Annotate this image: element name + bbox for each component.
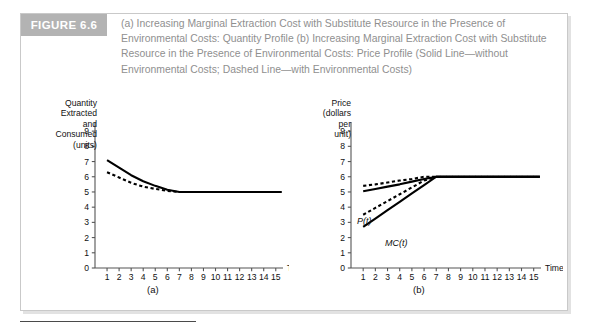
footnote-rule	[20, 321, 196, 322]
svg-text:6: 6	[84, 172, 89, 182]
svg-text:11: 11	[223, 272, 232, 282]
svg-text:3: 3	[385, 272, 390, 282]
svg-text:4: 4	[141, 272, 146, 282]
svg-text:2: 2	[340, 233, 345, 243]
svg-text:3: 3	[84, 217, 89, 227]
svg-text:8: 8	[340, 141, 345, 151]
svg-text:12: 12	[235, 272, 245, 282]
figure-container: FIGURE 6.6 (a) Increasing Marginal Extra…	[20, 13, 568, 311]
svg-text:7: 7	[177, 272, 182, 282]
svg-text:5: 5	[84, 187, 89, 197]
svg-text:0: 0	[84, 263, 89, 273]
svg-text:9: 9	[201, 272, 206, 282]
svg-text:1: 1	[361, 272, 366, 282]
svg-text:12: 12	[492, 272, 502, 282]
svg-text:3: 3	[340, 217, 345, 227]
svg-text:5: 5	[410, 272, 415, 282]
svg-text:5: 5	[153, 272, 158, 282]
panel-a-y-axis-label: Quantity Extracted and Consumed (units)	[35, 98, 97, 150]
svg-text:14: 14	[259, 272, 269, 282]
svg-text:15: 15	[271, 272, 281, 282]
svg-text:4: 4	[397, 272, 402, 282]
svg-text:P(t): P(t)	[357, 216, 372, 226]
svg-text:10: 10	[468, 272, 478, 282]
svg-text:14: 14	[517, 272, 527, 282]
panel-b-y-axis-label: Price (dollars per unit)	[297, 98, 351, 140]
svg-text:4: 4	[340, 202, 345, 212]
svg-text:10: 10	[211, 272, 221, 282]
svg-text:6: 6	[165, 272, 170, 282]
figure-number-badge: FIGURE 6.6	[21, 14, 107, 36]
svg-text:1: 1	[340, 248, 345, 258]
svg-text:Time: Time	[545, 263, 563, 273]
svg-text:5: 5	[340, 187, 345, 197]
svg-text:7: 7	[84, 157, 89, 167]
svg-text:Time: Time	[287, 263, 289, 273]
svg-text:7: 7	[434, 272, 439, 282]
figure-caption: (a) Increasing Marginal Extraction Cost …	[121, 16, 551, 77]
svg-text:11: 11	[481, 272, 490, 282]
panel-a: Quantity Extracted and Consumed (units) …	[29, 96, 289, 301]
panel-a-caption: (a)	[147, 284, 159, 295]
svg-text:2: 2	[117, 272, 122, 282]
svg-text:3: 3	[129, 272, 134, 282]
svg-text:15: 15	[529, 272, 539, 282]
svg-text:8: 8	[189, 272, 194, 282]
svg-text:8: 8	[446, 272, 451, 282]
svg-text:6: 6	[340, 172, 345, 182]
svg-text:13: 13	[247, 272, 257, 282]
svg-text:9: 9	[458, 272, 463, 282]
svg-text:13: 13	[505, 272, 515, 282]
panel-b: Price (dollars per unit) 012345678912345…	[293, 96, 563, 301]
svg-text:MC(t): MC(t)	[385, 238, 408, 248]
svg-text:6: 6	[422, 272, 427, 282]
svg-text:2: 2	[84, 233, 89, 243]
svg-text:1: 1	[105, 272, 110, 282]
svg-text:7: 7	[340, 157, 345, 167]
svg-text:4: 4	[84, 202, 89, 212]
svg-text:1: 1	[84, 248, 89, 258]
svg-text:0: 0	[340, 263, 345, 273]
svg-text:2: 2	[373, 272, 378, 282]
panel-b-caption: (b)	[413, 284, 425, 295]
